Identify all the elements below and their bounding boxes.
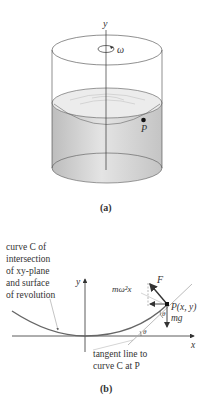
curve-leader [50, 299, 58, 330]
curve-annotation-line: of revolution [6, 290, 56, 300]
caption-b: (b) [100, 383, 112, 395]
x-axis-label-b: x [190, 340, 196, 350]
point-p-dot-b [165, 302, 169, 306]
cylinder-top [52, 35, 162, 65]
curve-annotation: curve C of intersection of xy-plane and … [6, 242, 56, 300]
tangent-annotation-line: tangent line to [93, 349, 148, 359]
point-p-label-a: P [140, 123, 147, 134]
theta-label-axis: θ [143, 328, 147, 336]
curve-annotation-line: of xy-plane [6, 266, 50, 276]
gravity-label: mg [171, 313, 183, 323]
theta-label-point: θ [162, 310, 166, 318]
figure-a-cylinder [52, 30, 162, 183]
force-f-label: F [156, 274, 164, 285]
point-p-dot [141, 118, 146, 123]
centripetal-label: mω²x [112, 284, 132, 294]
curve-annotation-line: and surface [6, 278, 50, 288]
y-axis-label-a: y [102, 18, 108, 29]
curve-annotation-line: intersection [6, 254, 51, 264]
force-f-arrow [150, 284, 167, 304]
curve-annotation-line: curve C of [6, 242, 47, 252]
tangent-annotation-line: curve C at P [93, 361, 140, 371]
caption-a: (a) [100, 202, 112, 214]
point-p-label-b: P(x, y) [170, 302, 196, 313]
y-axis-label-b: y [75, 277, 81, 287]
diagram-canvas: y ω P (a) curve C of intersection of xy-… [0, 0, 215, 402]
omega-label: ω [117, 44, 124, 55]
